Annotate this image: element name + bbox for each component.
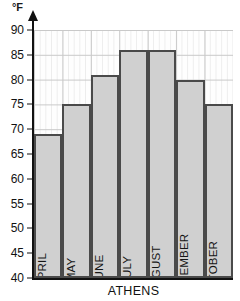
y-axis-tick-mark — [27, 253, 33, 254]
y-axis-tick-label: 65 — [11, 147, 24, 161]
x-axis-line — [32, 278, 233, 280]
y-axis-tick-label: 50 — [11, 221, 24, 235]
y-axis-tick-mark — [27, 30, 33, 31]
y-axis-tick-label: 40 — [11, 271, 24, 285]
bar-april: APRIL — [34, 134, 62, 278]
bar-category-label: AUGUST — [150, 245, 162, 278]
bar-category-label: SEPTEMBER — [178, 234, 190, 278]
y-axis-tick-label: 80 — [11, 73, 24, 87]
bar-june: JUNE — [91, 75, 119, 278]
y-axis-tick-label: 75 — [11, 97, 24, 111]
bar-chart: °F 4045505560657075808590 APRILMAYJUNEJU… — [0, 0, 240, 301]
bar-category-label: JULY — [121, 256, 133, 278]
y-axis-tick-label: 90 — [11, 23, 24, 37]
x-axis-title: ATHENS — [34, 284, 233, 298]
bar-category-label: OCTOBER — [207, 241, 219, 278]
bars-container: APRILMAYJUNEJULYAUGUSTSEPTEMBEROCTOBER — [34, 30, 233, 278]
y-axis-tick-mark — [27, 129, 33, 130]
y-axis-tick-mark — [27, 154, 33, 155]
y-axis-tick-label: 45 — [11, 246, 24, 260]
bar-category-label: JUNE — [93, 255, 105, 278]
y-axis-ticks: 4045505560657075808590 — [0, 0, 32, 301]
y-axis-tick-mark — [27, 178, 33, 179]
bar-july: JULY — [119, 50, 147, 278]
y-axis-tick-label: 55 — [11, 197, 24, 211]
y-axis-tick-mark — [27, 203, 33, 204]
bar-october: OCTOBER — [205, 104, 233, 278]
y-axis-tick-mark — [27, 104, 33, 105]
bar-category-label: MAY — [65, 258, 77, 278]
bar-august: AUGUST — [148, 50, 176, 278]
y-axis-tick-label: 85 — [11, 48, 24, 62]
y-axis-tick-mark — [27, 228, 33, 229]
bar-september: SEPTEMBER — [176, 80, 204, 278]
bar-may: MAY — [62, 104, 90, 278]
y-axis-tick-mark — [27, 278, 33, 279]
y-axis-tick-label: 70 — [11, 122, 24, 136]
y-axis-tick-mark — [27, 79, 33, 80]
y-axis-tick-label: 60 — [11, 172, 24, 186]
bar-category-label: APRIL — [36, 253, 48, 278]
y-axis-tick-mark — [27, 54, 33, 55]
